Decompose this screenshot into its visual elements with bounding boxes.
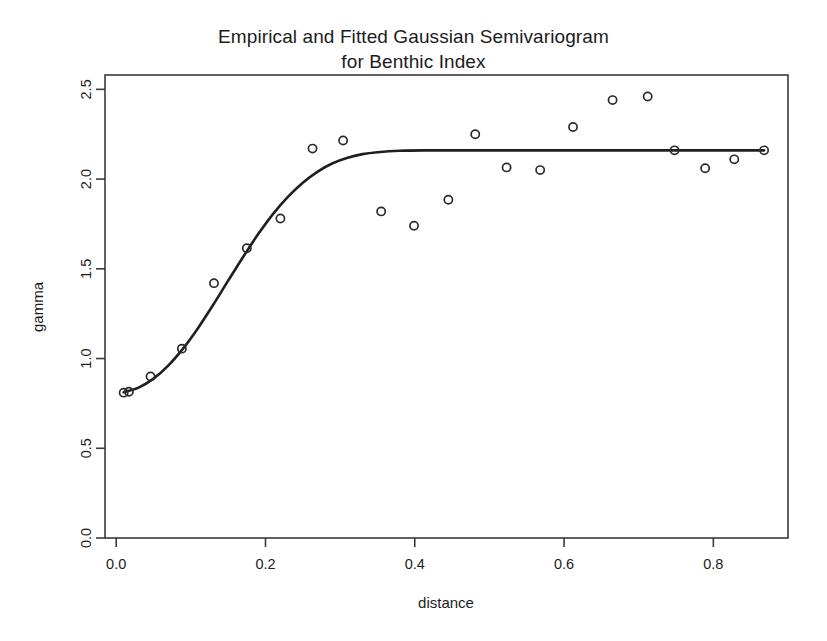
semivariogram-chart: Empirical and Fitted Gaussian Semivariog… [0,0,827,641]
plot-frame-rect [105,75,788,538]
data-point [210,279,218,287]
y-tick-label: 1.0 [78,348,94,368]
fitted-gaussian-curve [124,150,764,392]
y-tick-label: 0.5 [78,438,94,458]
empirical-data-points [120,92,769,396]
data-point [276,214,284,222]
x-tick-label: 0.2 [255,556,275,572]
data-point [308,144,316,152]
data-point [444,196,452,204]
data-point [730,155,738,163]
x-tick-label: 0.0 [106,556,126,572]
x-axis-ticks [116,538,713,547]
plot-frame [105,75,788,538]
y-axis-ticks [96,89,105,538]
y-axis-tick-labels: 0.00.51.01.52.02.5 [78,79,94,548]
x-tick-label: 0.8 [703,556,723,572]
data-point [410,222,418,230]
y-tick-label: 2.0 [78,169,94,189]
x-tick-label: 0.6 [554,556,574,572]
data-point [471,130,479,138]
y-tick-label: 1.5 [78,259,94,279]
data-point [569,123,577,131]
fitted-curve-path [124,150,764,392]
y-tick-label: 2.5 [78,79,94,99]
data-point [502,163,510,171]
data-point [339,136,347,144]
plot-area: 0.00.20.40.60.8 0.00.51.01.52.02.5 dista… [0,0,827,641]
x-axis-tick-labels: 0.00.20.40.60.8 [106,556,723,572]
data-point [608,96,616,104]
y-tick-label: 0.0 [78,528,94,548]
data-point [644,92,652,100]
data-point [536,166,544,174]
x-axis-title: distance [418,594,474,611]
y-axis-title: gamma [29,281,46,332]
data-point [377,207,385,215]
data-point [701,164,709,172]
x-tick-label: 0.4 [405,556,425,572]
